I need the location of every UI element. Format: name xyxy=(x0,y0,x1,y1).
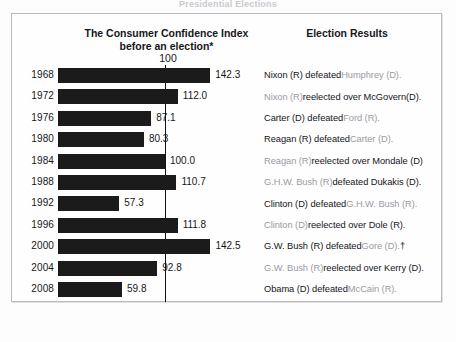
bar xyxy=(58,261,157,276)
election-result-row: Reagan (R) reelected over Mondale (D) xyxy=(264,151,454,172)
bar xyxy=(58,218,178,233)
election-result-text: Clinton (D) xyxy=(264,220,308,231)
chart-row: 199257.3 xyxy=(12,193,272,214)
bar xyxy=(58,154,165,169)
bar-value-label: 100.0 xyxy=(170,155,195,166)
election-result-text: Nixon (R) xyxy=(264,92,303,103)
election-result-text: reelected over Dole (R). xyxy=(308,220,406,231)
bar-value-label: 92.8 xyxy=(162,262,181,273)
election-result-row: Carter (D) defeated Ford (R). xyxy=(264,108,454,129)
chart-row: 200859.8 xyxy=(12,279,272,300)
year-label: 2004 xyxy=(24,262,54,273)
left-column-header: The Consumer Confidence Index before an … xyxy=(59,27,274,53)
election-result-text: Reagan (R) xyxy=(264,156,312,167)
election-result-row: Obama (D) defeated McCain (R). xyxy=(264,279,454,300)
left-column-header-line2: before an election* xyxy=(120,40,214,52)
year-label: 1988 xyxy=(24,176,54,187)
election-result-text: Gore (D). xyxy=(362,241,400,252)
election-result-row: Nixon (R) reelected over McGovern(D). xyxy=(264,86,454,107)
year-label: 1972 xyxy=(24,90,54,101)
year-label: 1984 xyxy=(24,155,54,166)
election-result-text: † xyxy=(400,241,405,252)
right-column-header: Election Results xyxy=(262,27,432,39)
chart-row: 1996111.8 xyxy=(12,215,272,236)
chart-row: 200492.8 xyxy=(12,258,272,279)
year-label: 1992 xyxy=(24,197,54,208)
bar-value-label: 110.7 xyxy=(181,176,205,187)
election-result-row: G.W. Bush (R) reelected over Kerry (D). xyxy=(264,258,454,279)
election-result-row: G.H.W. Bush (R) defeated Dukakis (D). xyxy=(264,172,454,193)
year-label: 1976 xyxy=(24,112,54,123)
election-result-text: Nixon (R) defeated xyxy=(264,70,341,81)
chart-row: 2000142.5 xyxy=(12,236,272,257)
bar xyxy=(58,282,122,297)
election-result-text: reelected over Kerry (D). xyxy=(323,263,424,274)
chart-row: 1984100.0 xyxy=(12,151,272,172)
bar-value-label: 59.8 xyxy=(127,283,146,294)
election-result-row: Clinton (D) reelected over Dole (R). xyxy=(264,215,454,236)
chart-row: 198080.3 xyxy=(12,129,272,150)
election-result-text: defeated Dukakis (D). xyxy=(332,177,421,188)
chart-row: 1972112.0 xyxy=(12,86,272,107)
bar-value-label: 57.3 xyxy=(124,197,143,208)
election-result-row: Clinton (D) defeated G.H.W. Bush (R). xyxy=(264,193,454,214)
bar-value-label: 112.0 xyxy=(183,90,207,101)
year-label: 1996 xyxy=(24,219,54,230)
bar xyxy=(58,111,151,126)
election-result-text: Carter (D) defeated xyxy=(264,113,343,124)
election-result-text: G.H.W. Bush (R). xyxy=(346,199,417,210)
year-label: 2000 xyxy=(24,240,54,251)
bar-value-label: 80.3 xyxy=(149,133,168,144)
election-result-text: McCain (R). xyxy=(348,284,397,295)
election-results-list: Nixon (R) defeated Humphrey (D).Nixon (R… xyxy=(264,65,454,300)
bar xyxy=(58,239,210,254)
chart-row: 1988110.7 xyxy=(12,172,272,193)
election-result-text: Obama (D) defeated xyxy=(264,284,348,295)
figure-frame: The Consumer Confidence Index before an … xyxy=(11,13,442,302)
bar-value-label: 87.1 xyxy=(156,112,175,123)
chart-row: 1968142.3 xyxy=(12,65,272,86)
election-result-row: G.W. Bush (R) defeated Gore (D).† xyxy=(264,236,454,257)
bar-value-label: 111.8 xyxy=(183,219,207,230)
figure-page: Presidential Elections The Consumer Conf… xyxy=(0,0,456,342)
election-result-text: G.H.W. Bush (R) xyxy=(264,177,332,188)
axis-tick-label-100: 100 xyxy=(147,52,189,64)
election-result-text: G.W. Bush (R) defeated xyxy=(264,241,362,252)
bar xyxy=(58,175,176,190)
election-result-row: Nixon (R) defeated Humphrey (D). xyxy=(264,65,454,86)
year-label: 2008 xyxy=(24,283,54,294)
bar xyxy=(58,68,210,83)
left-column-header-line1: The Consumer Confidence Index xyxy=(85,27,249,39)
election-result-text: reelected over McGovern(D). xyxy=(303,92,422,103)
top-caption: Presidential Elections xyxy=(0,0,456,8)
election-result-text: reelected over Mondale (D) xyxy=(312,156,423,167)
election-result-text: G.W. Bush (R) xyxy=(264,263,323,274)
bar xyxy=(58,132,144,147)
election-result-text: Humphrey (D). xyxy=(341,70,401,81)
election-result-text: Carter (D). xyxy=(350,134,393,145)
year-label: 1980 xyxy=(24,133,54,144)
year-label: 1968 xyxy=(24,69,54,80)
election-result-text: Ford (R). xyxy=(343,113,380,124)
bar-value-label: 142.3 xyxy=(215,69,240,80)
bar xyxy=(58,89,178,104)
election-result-text: Reagan (R) defeated xyxy=(264,134,350,145)
bar xyxy=(58,196,119,211)
bar-value-label: 142.5 xyxy=(215,240,240,251)
election-result-text: Clinton (D) defeated xyxy=(264,199,346,210)
bar-chart: 1968142.31972112.0197687.1198080.3198410… xyxy=(12,65,272,300)
election-result-row: Reagan (R) defeated Carter (D). xyxy=(264,129,454,150)
chart-row: 197687.1 xyxy=(12,108,272,129)
